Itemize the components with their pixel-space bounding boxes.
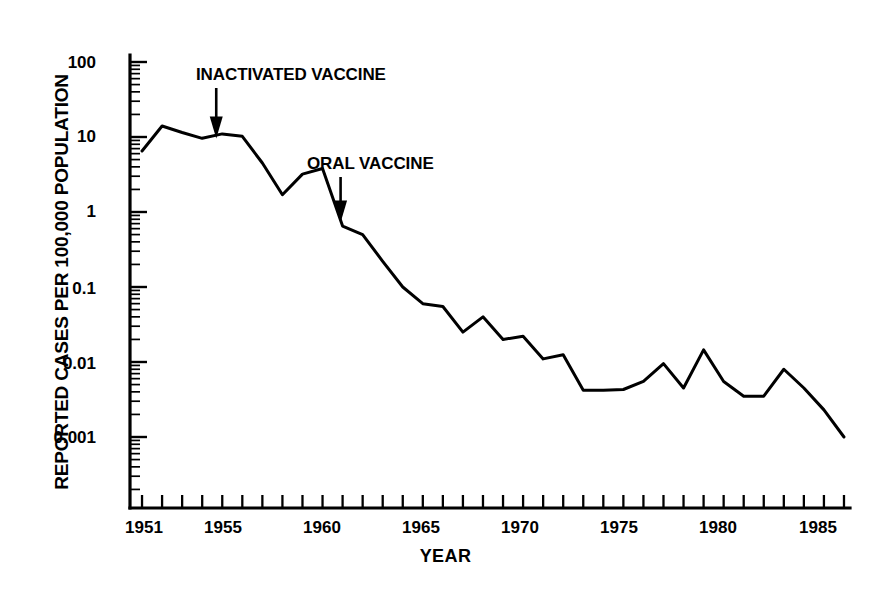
plot-area (0, 0, 891, 593)
axes (130, 55, 850, 508)
x-axis-ticks (142, 495, 844, 508)
data-series-line (142, 126, 844, 437)
annotation-arrows (210, 88, 347, 223)
arrow-oral-vaccine (334, 177, 347, 223)
arrow-inactivated-vaccine (210, 88, 223, 138)
chart-figure: REPORTED CASES PER 100,000 POPULATION YE… (0, 0, 891, 593)
y-axis-ticks (130, 62, 147, 489)
data-series-group (142, 126, 844, 437)
